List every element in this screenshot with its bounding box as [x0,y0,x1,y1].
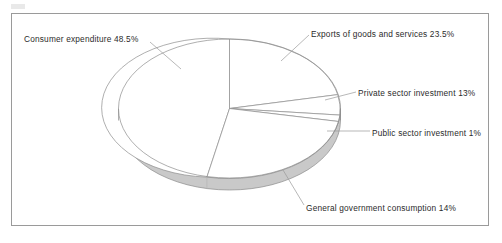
label-public-sector-investment: Public sector investment 1% [372,128,481,138]
chart-stage: Consumer expenditure 48.5% Exports of go… [0,0,502,243]
label-private-sector-investment: Private sector investment 13% [358,88,475,98]
pie-slice-consumer-expenditure [102,38,230,177]
pie-slice-general-government-consumption [207,109,339,179]
label-general-government-consumption: General government consumption 14% [306,203,456,213]
label-exports-of-goods-and-services: Exports of goods and services 23.5% [311,29,454,39]
label-consumer-expenditure: Consumer expenditure 48.5% [24,34,138,44]
